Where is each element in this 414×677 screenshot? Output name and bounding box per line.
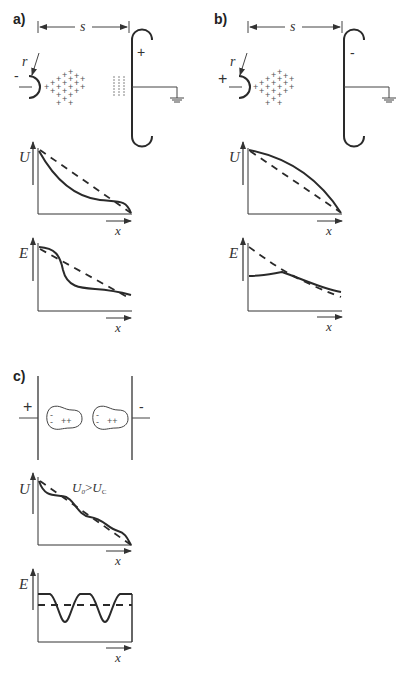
svg-text:+: + xyxy=(271,94,276,104)
svg-text:+: + xyxy=(74,86,79,96)
plot-a-field: E x xyxy=(18,238,132,335)
svg-text:+: + xyxy=(50,86,55,96)
plane-electrode: - xyxy=(344,30,389,147)
panel-b-label: b) xyxy=(214,11,227,27)
plot-a-potential: U x xyxy=(19,142,132,238)
svg-text:++: ++ xyxy=(61,416,72,426)
plot-b-u-ylabel: U xyxy=(229,149,241,165)
discharge-diagram: a) s r - + ++++ +++++ +++++ ++++ ++ xyxy=(0,0,414,677)
svg-text:-: - xyxy=(50,417,53,427)
point-electrode: r - xyxy=(14,53,40,98)
plane-electrode-sign: + xyxy=(137,44,145,60)
svg-text:-: - xyxy=(96,417,99,427)
svg-text:+: + xyxy=(259,86,264,96)
svg-text:+: + xyxy=(283,86,288,96)
svg-text:+: + xyxy=(253,82,258,92)
plot-c-e-ylabel: E xyxy=(18,576,28,592)
plot-b-field: E x xyxy=(228,238,342,334)
svg-text:+: + xyxy=(277,98,282,108)
right-electrode-sign: - xyxy=(139,399,144,415)
distance-s-indicator: s xyxy=(38,19,129,34)
space-charge-cloud: + ++++ +++++ +++++ ++++ ++ xyxy=(44,67,85,108)
svg-text:+: + xyxy=(56,98,61,108)
plot-b-u-xlabel: x xyxy=(325,223,332,238)
svg-text:+: + xyxy=(289,82,294,92)
left-plate-electrode: + xyxy=(19,376,38,460)
svg-text:+: + xyxy=(80,82,85,92)
plot-a-e-xlabel: x xyxy=(114,320,121,335)
distance-label: s xyxy=(80,19,86,34)
panel-c: c) + - - - ++ - - ++ U U0>UC xyxy=(13,368,150,665)
panel-c-label: c) xyxy=(13,368,25,384)
distance-s-indicator: s xyxy=(248,19,342,34)
plane-electrode: + xyxy=(132,30,177,147)
panel-a: a) s r - + ++++ +++++ +++++ ++++ ++ xyxy=(13,11,184,335)
plot-c-e-xlabel: x xyxy=(114,650,121,665)
left-electrode-sign: + xyxy=(23,398,32,415)
plot-c-u-xlabel: x xyxy=(114,553,121,568)
plot-a-u-ylabel: U xyxy=(19,149,31,165)
svg-text:+: + xyxy=(62,94,67,104)
plot-b-potential: U x xyxy=(229,142,342,238)
svg-text:+: + xyxy=(265,98,270,108)
panel-b: b) s r + + ++++ +++++ +++++ ++++ ++ - xyxy=(214,11,396,334)
plane-electrode-sign: - xyxy=(350,45,355,61)
radius-label: r xyxy=(230,54,236,69)
voltage-condition-annotation: U0>UC xyxy=(72,480,107,496)
ground-icon xyxy=(170,98,184,102)
point-electrode-sign: - xyxy=(14,68,19,84)
dipole-cloud-2: - - ++ xyxy=(93,406,128,429)
distance-label: s xyxy=(290,19,296,34)
svg-text:+: + xyxy=(68,98,73,108)
radius-label: r xyxy=(22,54,28,69)
point-electrode: r + xyxy=(218,53,250,98)
induced-charge-layer xyxy=(113,77,125,95)
plot-a-u-xlabel: x xyxy=(114,223,121,238)
plot-b-e-ylabel: E xyxy=(228,245,238,261)
svg-text:++: ++ xyxy=(107,416,118,426)
panel-a-label: a) xyxy=(13,11,25,27)
ground-icon xyxy=(382,98,396,102)
plot-a-e-ylabel: E xyxy=(18,245,28,261)
svg-text:+: + xyxy=(44,82,49,92)
plot-c-field: E x xyxy=(18,569,132,665)
right-plate-electrode: - xyxy=(132,376,150,460)
point-electrode-sign: + xyxy=(218,70,227,87)
plot-b-e-xlabel: x xyxy=(325,319,332,334)
plot-c-potential: U U0>UC x xyxy=(19,473,132,568)
space-charge-cloud: + ++++ +++++ +++++ ++++ ++ xyxy=(253,67,294,108)
dipole-cloud-1: - - ++ xyxy=(47,406,82,429)
plot-c-u-ylabel: U xyxy=(19,481,31,497)
